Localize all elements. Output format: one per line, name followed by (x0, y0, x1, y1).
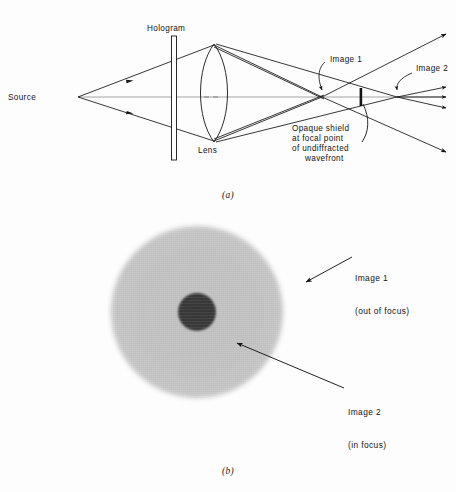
label-lens: Lens (198, 146, 217, 155)
ray-lensrim-upper-to-image1 (214, 45, 322, 97)
lens-element (201, 44, 228, 142)
shield-text-line4: wavefront (304, 154, 344, 163)
label-image1: Image 1 (330, 55, 362, 64)
ray-lensrim-upper-to-image1-b (214, 47, 324, 99)
image1-photo-leader (306, 257, 352, 282)
label-opaque-shield-block: Opaque shield at focal point of undiffra… (292, 124, 349, 163)
label-image1-photo-line1: Image 1 (355, 273, 409, 284)
label-image1-photo: Image 1 (out of focus) (355, 251, 409, 339)
ray-out-upper-shallow (397, 87, 446, 97)
shield-text-line2: at focal point (292, 134, 344, 143)
label-image2-photo-line2: (in focus) (348, 440, 386, 451)
photo-annotation-svg (0, 200, 456, 492)
label-image1-photo-line2: (out of focus) (355, 306, 409, 317)
label-image2-photo: Image 2 (in focus) (348, 385, 386, 473)
image2-photo-leader (237, 343, 344, 388)
label-hologram: Hologram (147, 24, 185, 33)
ray-out-lower-shallow (397, 97, 446, 108)
shield-text-line3: of undiffracted (292, 144, 349, 153)
image2-leader-line (397, 73, 412, 90)
ray-source-upper (78, 45, 214, 97)
label-image2-photo-line1: Image 2 (348, 407, 386, 418)
shield-text-line1: Opaque shield (292, 124, 349, 133)
photo-canvas: Image 1 (out of focus) Image 2 (in focus… (0, 200, 456, 492)
shield-leader-line (362, 104, 368, 142)
label-source: Source (8, 93, 36, 102)
hologram-plate (172, 36, 177, 160)
panel-a-ray-diagram: Image 1 Image 2 Source Hologram Lens Opa… (0, 0, 456, 200)
ray-lensrim-upper-to-image2 (216, 44, 397, 97)
opaque-shield (360, 88, 363, 106)
ray-diagram-svg: Image 1 Image 2 Source Hologram Lens Opa… (0, 0, 456, 200)
panel-a-caption: (a) (0, 190, 456, 200)
label-image2: Image 2 (416, 64, 448, 73)
figure-root: Image 1 Image 2 Source Hologram Lens Opa… (0, 0, 456, 492)
ray-source-lower (78, 97, 214, 141)
panel-b-caption: (b) (0, 466, 456, 476)
panel-b-photograph: Image 1 (out of focus) Image 2 (in focus… (0, 200, 456, 492)
